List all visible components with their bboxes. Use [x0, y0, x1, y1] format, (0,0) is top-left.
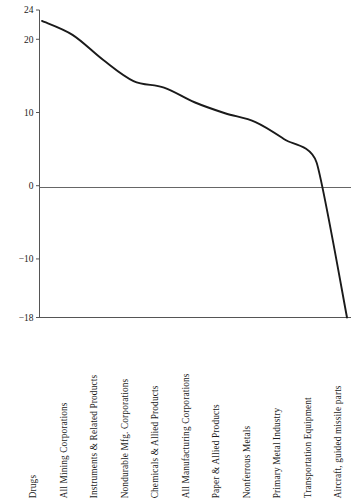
- y-tick-label: 10: [24, 108, 34, 118]
- y-tick-label: −10: [19, 254, 34, 264]
- y-axis-ticks: 2420100−10−18: [19, 5, 40, 323]
- y-tick-label: 20: [24, 35, 34, 45]
- data-series-line: [42, 21, 347, 318]
- x-axis-label: Primary Metal Industry: [273, 407, 282, 498]
- x-axis-label: Aircraft, guided missile parts: [334, 385, 343, 498]
- x-axis-category-labels: DrugsAll Mining CorporationsInstruments …: [0, 322, 356, 500]
- x-axis-label: Nondurable Mfg. Corporations: [120, 378, 129, 498]
- x-axis-label: All Mining Corporations: [59, 402, 68, 498]
- y-tick-label: 24: [24, 5, 34, 15]
- y-tick-label: 0: [29, 181, 34, 191]
- chart-container: 2420100−10−18 DrugsAll Mining Corporatio…: [0, 0, 356, 500]
- x-axis-label: Nonferrous Metals: [242, 425, 251, 498]
- x-axis-label: Chemicals & Allied Products: [151, 385, 160, 498]
- x-axis-label: Paper & Allied Products: [212, 404, 221, 498]
- x-axis-label: All Manufacturing Corporations: [181, 373, 190, 498]
- x-axis-label: Drugs: [29, 475, 38, 498]
- x-axis-label: Transportation Equipment: [303, 397, 312, 498]
- x-axis-label: Instruments & Related Products: [90, 374, 99, 498]
